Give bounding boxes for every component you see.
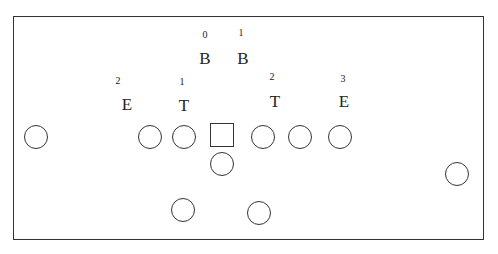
defender-back: B — [199, 50, 210, 67]
defender-number: 2 — [270, 72, 275, 82]
defender-end: E — [339, 93, 349, 110]
offense-player-circle — [247, 201, 271, 225]
offense-player-circle — [24, 125, 48, 149]
defender-back: B — [237, 50, 248, 67]
defender-number: 2 — [116, 76, 121, 86]
offense-player-circle — [251, 125, 275, 149]
offense-player-circle — [288, 125, 312, 149]
offense-player-circle — [172, 125, 196, 149]
offense-player-circle — [445, 162, 469, 186]
offense-player-circle — [210, 152, 234, 176]
offense-player-circle — [328, 125, 352, 149]
offense-player-circle — [171, 198, 195, 222]
defender-number: 1 — [239, 28, 244, 38]
center-square — [210, 123, 234, 147]
defender-end: E — [122, 96, 132, 113]
defender-tackle: T — [179, 97, 189, 114]
offense-player-circle — [138, 125, 162, 149]
defender-number: 1 — [180, 77, 185, 87]
defender-number: 0 — [203, 30, 208, 40]
defender-tackle: T — [270, 93, 280, 110]
defender-number: 3 — [341, 74, 346, 84]
